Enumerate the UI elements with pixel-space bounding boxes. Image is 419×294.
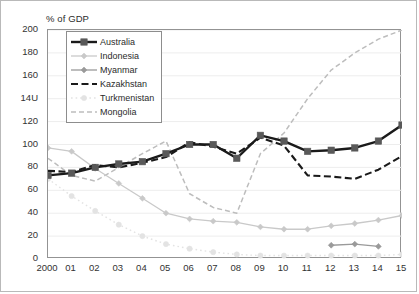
- legend-line-swatch-icon: [70, 92, 98, 104]
- legend-item-myanmar[interactable]: Myanmar: [70, 63, 157, 77]
- chart-title: % of GDP: [46, 13, 89, 24]
- legend-item-label: Turkmenistan: [98, 93, 154, 103]
- legend-item-label: Kazakhstan: [98, 79, 147, 89]
- y-axis-tick-label: 100: [4, 139, 38, 149]
- x-axis-tick-label: 10: [278, 262, 289, 273]
- y-axis-tick-label: 200: [4, 24, 38, 34]
- x-axis-tick-label: 02: [89, 262, 100, 273]
- series-indonesia: [48, 145, 402, 232]
- y-axis-tick-label: 180: [4, 47, 38, 57]
- series-myanmar: [328, 241, 381, 249]
- legend-item-label: Mongolia: [98, 107, 137, 117]
- legend-item-label: Australia: [98, 37, 135, 47]
- x-axis-tick-label: 06: [183, 262, 194, 273]
- legend-item-australia[interactable]: Australia: [70, 35, 157, 49]
- legend-line-swatch-icon: [70, 50, 98, 62]
- x-axis-tick-label: 09: [254, 262, 265, 273]
- legend: AustraliaIndonesiaMyanmarKazakhstanTurkm…: [66, 31, 162, 123]
- legend-item-label: Indonesia: [98, 51, 139, 61]
- x-axis-tick-label: 11: [302, 262, 312, 273]
- y-axis-tick-label: 60: [4, 184, 38, 194]
- y-axis-tick-label: 160: [4, 70, 38, 80]
- x-axis-tick-label: 08: [231, 262, 242, 273]
- y-axis-tick-label: 0: [4, 253, 38, 263]
- series-australia: [48, 122, 402, 179]
- legend-item-kazakhstan[interactable]: Kazakhstan: [70, 77, 157, 91]
- legend-item-indonesia[interactable]: Indonesia: [70, 49, 157, 63]
- x-axis-tick-label: 13: [349, 262, 360, 273]
- y-axis-tick-label: 40: [4, 207, 38, 217]
- chart-figure: % of GDP 02040608010012014U160180200 200…: [0, 0, 419, 294]
- x-axis-tick-label: 01: [65, 262, 76, 273]
- x-axis-tick-label: 14: [372, 262, 383, 273]
- x-axis-tick-label: 2000: [36, 262, 57, 273]
- x-axis-tick-label: 04: [136, 262, 147, 273]
- legend-item-turkmenistan[interactable]: Turkmenistan: [70, 91, 157, 105]
- y-axis-tick-label: 14U: [4, 93, 38, 103]
- series-turkmenistan: [48, 176, 402, 258]
- x-axis-tick-label: 12: [325, 262, 336, 273]
- legend-line-swatch-icon: [70, 64, 98, 76]
- legend-line-swatch-icon: [70, 106, 98, 118]
- legend-line-swatch-icon: [70, 78, 98, 90]
- legend-line-swatch-icon: [70, 36, 98, 48]
- x-axis-tick-label: 05: [160, 262, 171, 273]
- legend-item-label: Myanmar: [98, 65, 138, 75]
- y-axis-tick-label: 20: [4, 230, 38, 240]
- legend-item-mongolia[interactable]: Mongolia: [70, 105, 157, 119]
- x-axis-tick-label: 03: [113, 262, 124, 273]
- x-axis-tick-label: 07: [207, 262, 218, 273]
- x-axis-tick-label: 15: [396, 262, 407, 273]
- y-axis-tick-label: 80: [4, 161, 38, 171]
- y-axis-tick-label: 120: [4, 116, 38, 126]
